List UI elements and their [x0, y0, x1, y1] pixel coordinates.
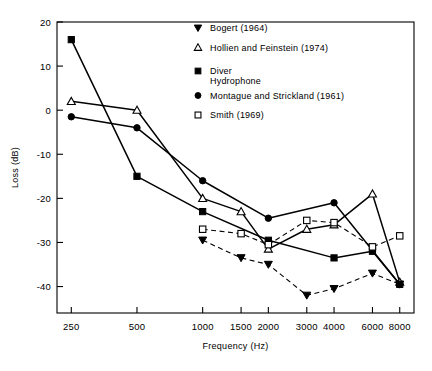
series-4-point-3	[304, 217, 310, 223]
line-chart: 2505001000150020003000400060008000Freque…	[0, 0, 432, 371]
legend-label-2: Diver	[210, 66, 232, 76]
x-tick-label-3000: 3000	[296, 321, 318, 332]
y-tick-label--20: -20	[37, 193, 51, 204]
legend-marker-3	[195, 93, 201, 99]
series-1-point-0	[67, 97, 75, 104]
y-tick-label-0: 0	[46, 105, 51, 116]
legend-marker-0	[194, 25, 201, 31]
legend-label-1: Hollien and Feinstein (1974)	[210, 43, 328, 53]
series-4-point-5	[369, 244, 375, 250]
x-axis-title: Frequency (Hz)	[202, 341, 268, 351]
x-tick-label-500: 500	[129, 321, 145, 332]
legend-label-4: Smith (1969)	[210, 110, 264, 120]
series-2-point-4	[331, 255, 337, 261]
series-1-point-7	[368, 190, 376, 197]
series-2-point-2	[200, 208, 206, 214]
series-0-point-5	[368, 270, 376, 277]
series-4-point-0	[199, 226, 205, 232]
series-0-point-0	[199, 237, 207, 244]
series-3-point-1	[134, 125, 140, 131]
series-0-point-2	[264, 261, 272, 268]
y-tick-label--40: -40	[37, 281, 51, 292]
legend-marker-1	[194, 44, 201, 51]
series-4-point-4	[331, 219, 337, 225]
legend-marker-4	[195, 112, 201, 118]
series-3-point-0	[68, 114, 74, 120]
y-tick-label-20: 20	[40, 17, 51, 28]
y-tick-label--10: -10	[37, 149, 51, 160]
series-3-point-5	[397, 281, 403, 287]
series-4-point-6	[397, 233, 403, 239]
x-tick-label-1500: 1500	[230, 321, 252, 332]
legend-label-2b: Hydrophone	[210, 76, 261, 86]
x-tick-label-2000: 2000	[257, 321, 279, 332]
x-tick-label-4000: 4000	[323, 321, 345, 332]
series-3-point-4	[331, 200, 337, 206]
x-tick-label-1000: 1000	[192, 321, 214, 332]
series-3-point-3	[265, 215, 271, 221]
y-tick-label-10: 10	[40, 61, 51, 72]
series-4-point-2	[265, 241, 271, 247]
series-2-point-0	[68, 37, 74, 43]
legend-marker-2	[195, 68, 201, 74]
series-3-point-2	[199, 178, 205, 184]
legend-label-0: Bogert (1964)	[210, 23, 268, 33]
x-tick-label-250: 250	[63, 321, 79, 332]
figure-container: 2505001000150020003000400060008000Freque…	[0, 0, 432, 371]
x-tick-label-8000: 8000	[389, 321, 411, 332]
y-tick-label--30: -30	[37, 237, 51, 248]
series-0-point-3	[303, 292, 311, 299]
series-4-point-1	[238, 230, 244, 236]
series-2-point-1	[134, 173, 140, 179]
legend-label-3: Montague and Strickland (1961)	[210, 91, 344, 101]
y-axis-title: Loss (dB)	[10, 147, 20, 188]
plot-frame	[57, 22, 414, 313]
x-tick-label-6000: 6000	[361, 321, 383, 332]
